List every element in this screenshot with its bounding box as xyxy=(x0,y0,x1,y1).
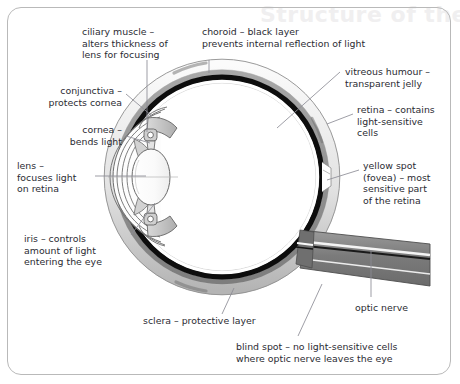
label-sclera: sclera – protective layer xyxy=(143,315,273,327)
label-retina: retina – contains light-sensitive cells xyxy=(357,104,457,139)
label-blind-spot: blind spot – no light-sensitive cells wh… xyxy=(236,341,451,364)
label-optic-nerve: optic nerve xyxy=(355,302,435,314)
optic-nerve-structure xyxy=(296,230,430,286)
label-choroid: choroid – black layer prevents internal … xyxy=(202,26,422,49)
label-cornea: cornea – bends light xyxy=(30,124,122,147)
label-iris: iris – controls amount of light entering… xyxy=(24,233,128,268)
label-vitreous-humour: vitreous humour – transparent jelly xyxy=(345,66,455,89)
leader-blind-spot xyxy=(298,284,322,336)
label-lens: lens – focuses light on retina xyxy=(17,160,109,195)
label-yellow-spot-fovea: yellow spot (fovea) – most sensitive par… xyxy=(363,160,459,206)
label-ciliary-muscle: ciliary muscle – alters thickness of len… xyxy=(82,26,212,61)
eye-diagram-page: Structure of the eye xyxy=(0,0,460,384)
label-conjunctiva: conjunctiva – protects cornea xyxy=(30,85,122,108)
leader-retina xyxy=(327,114,353,124)
